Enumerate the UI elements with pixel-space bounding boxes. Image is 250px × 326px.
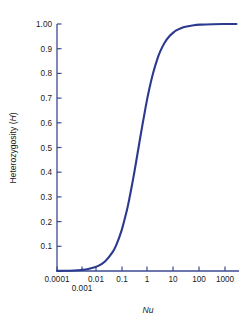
- x-axis-title: Nu: [143, 305, 154, 315]
- x-tick-label-4: 1: [145, 275, 150, 284]
- x-tick-label-5: 10: [168, 275, 178, 284]
- y-tick-label-2: 0.8: [41, 69, 53, 78]
- x-tick-label-6: 100: [192, 275, 206, 284]
- x-tick-label-1: 0.001: [72, 284, 93, 293]
- y-tick-label-9: 0.1: [41, 242, 53, 251]
- y-tick-label-4: 0.6: [41, 119, 53, 128]
- y-axis-title: Heterozygosity (H): [8, 112, 18, 183]
- x-tick-label-3: 0.1: [116, 275, 128, 284]
- heterozygosity-vs-nu-chart: 1.000.90.80.70.60.50.40.30.20.1 0.00010.…: [0, 0, 250, 326]
- y-tick-label-3: 0.7: [41, 94, 53, 103]
- x-tick-label-2: 0.01: [88, 275, 104, 284]
- y-tick-label-8: 0.2: [41, 218, 53, 227]
- x-tick-label-7: 1000: [216, 275, 235, 284]
- y-tick-label-0: 1.00: [36, 20, 52, 29]
- chart-container: 1.000.90.80.70.60.50.40.30.20.1 0.00010.…: [0, 0, 250, 326]
- x-tick-label-0: 0.0001: [44, 275, 69, 284]
- y-tick-label-5: 0.5: [41, 144, 53, 153]
- y-tick-label-6: 0.4: [41, 168, 53, 177]
- y-tick-label-1: 0.9: [41, 45, 53, 54]
- y-tick-label-7: 0.3: [41, 193, 53, 202]
